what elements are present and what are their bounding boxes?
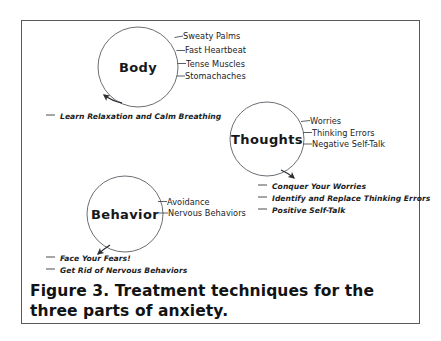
technique-label: Get Rid of Nervous Behaviors — [60, 266, 187, 275]
technique-item-face-your-fears: Face Your Fears! — [46, 254, 131, 263]
technique-label: Learn Relaxation and Calm Breathing — [60, 112, 221, 121]
technique-dash-icon — [258, 185, 267, 186]
technique-item-learn-relaxation: Learn Relaxation and Calm Breathing — [46, 112, 221, 121]
technique-label: Face Your Fears! — [60, 254, 131, 263]
technique-dash-icon — [46, 257, 55, 258]
symptom-label-nervous-behaviors: Nervous Behaviors — [168, 208, 246, 218]
technique-dash-icon — [258, 209, 267, 210]
node-title-behavior: Behavior — [91, 207, 159, 222]
figure-caption: Figure 3. Treatment techniques for the t… — [30, 281, 412, 321]
technique-label: Identify and Replace Thinking Errors — [272, 194, 430, 203]
symptom-label-tense-muscles: Tense Muscles — [186, 59, 245, 69]
symptom-label-negative-self-talk: Negative Self-Talk — [312, 139, 385, 149]
symptom-label-worries: Worries — [310, 116, 341, 126]
symptom-label-avoidance: Avoidance — [167, 197, 210, 207]
technique-item-identify-replace-thinking-errors: Identify and Replace Thinking Errors — [258, 194, 430, 203]
technique-item-positive-self-talk: Positive Self-Talk — [258, 206, 345, 215]
figure-container: Body Thoughts Behavior Sweaty Palms Fast… — [0, 0, 441, 341]
symptom-label-sweaty-palms: Sweaty Palms — [183, 31, 240, 41]
technique-dash-icon — [258, 197, 267, 198]
technique-item-conquer-worries: Conquer Your Worries — [258, 182, 366, 191]
node-title-thoughts: Thoughts — [231, 132, 303, 147]
symptom-label-thinking-errors: Thinking Errors — [312, 128, 375, 138]
technique-label: Positive Self-Talk — [272, 206, 345, 215]
technique-dash-icon — [46, 115, 55, 116]
node-title-body: Body — [119, 60, 157, 75]
technique-dash-icon — [46, 269, 55, 270]
technique-item-get-rid-nervous-behaviors: Get Rid of Nervous Behaviors — [46, 266, 187, 275]
technique-label: Conquer Your Worries — [272, 182, 366, 191]
symptom-label-stomachaches: Stomachaches — [185, 71, 246, 81]
symptom-label-fast-heartbeat: Fast Heartbeat — [185, 45, 246, 55]
